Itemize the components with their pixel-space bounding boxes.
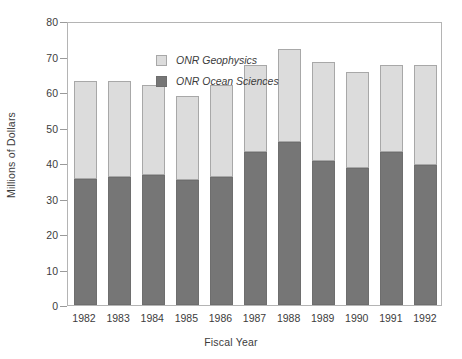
bar-group <box>312 21 335 305</box>
y-axis-tick-label: 0 <box>4 300 58 312</box>
y-axis-tick <box>60 129 67 130</box>
y-axis-tick <box>60 93 67 94</box>
x-axis-tick-label: 1983 <box>106 312 129 324</box>
bar-segment-ocean-sciences <box>414 165 437 305</box>
bar-segment-geophysics <box>142 85 165 176</box>
y-axis-tick-label: 80 <box>4 16 58 28</box>
x-axis-tick-label: 1992 <box>413 312 436 324</box>
y-axis-tick <box>60 164 67 165</box>
bar-segment-ocean-sciences <box>210 177 233 305</box>
bar-segment-ocean-sciences <box>108 177 131 305</box>
bar-segment-ocean-sciences <box>176 180 199 305</box>
bar-segment-geophysics <box>346 72 369 168</box>
y-axis-tick <box>60 271 67 272</box>
chart-legend: ONR GeophysicsONR Ocean Sciences <box>156 52 279 94</box>
y-axis-tick-label: 70 <box>4 52 58 64</box>
bar-group <box>346 21 369 305</box>
x-axis-tick-label: 1987 <box>243 312 266 324</box>
bar-group <box>108 21 131 305</box>
legend-item: ONR Ocean Sciences <box>156 73 279 89</box>
y-axis-tick-label: 20 <box>4 229 58 241</box>
bar-segment-geophysics <box>380 65 403 152</box>
legend-item: ONR Geophysics <box>156 52 279 68</box>
stacked-bar-chart: Millions of Dollars 01020304050607080 ON… <box>0 0 462 359</box>
bar-segment-ocean-sciences <box>312 161 335 305</box>
y-axis-tick <box>60 58 67 59</box>
bar-segment-geophysics <box>278 49 301 141</box>
legend-label: ONR Ocean Sciences <box>176 75 279 87</box>
y-axis-tick-label: 40 <box>4 158 58 170</box>
bar-segment-ocean-sciences <box>74 179 97 305</box>
x-axis-tick-label: 1988 <box>277 312 300 324</box>
bar-segment-ocean-sciences <box>278 142 301 305</box>
legend-swatch <box>156 55 167 66</box>
y-axis-tick <box>60 306 67 307</box>
bar-segment-ocean-sciences <box>142 175 165 305</box>
x-axis-tick-label: 1985 <box>175 312 198 324</box>
bar-segment-geophysics <box>74 81 97 179</box>
x-axis-tick-label: 1989 <box>311 312 334 324</box>
bar-segment-geophysics <box>176 96 199 180</box>
bar-segment-ocean-sciences <box>346 168 369 305</box>
legend-swatch <box>156 76 167 87</box>
x-axis-tick-label: 1990 <box>345 312 368 324</box>
y-axis-tick-label: 30 <box>4 194 58 206</box>
x-axis-title: Fiscal Year <box>0 336 462 348</box>
bar-group <box>414 21 437 305</box>
y-axis-tick-label: 50 <box>4 123 58 135</box>
bar-group <box>74 21 97 305</box>
bar-segment-geophysics <box>414 65 437 164</box>
bar-segment-ocean-sciences <box>380 152 403 305</box>
y-axis-tick-label: 60 <box>4 87 58 99</box>
x-axis-tick-label: 1991 <box>379 312 402 324</box>
bar-segment-ocean-sciences <box>244 152 267 305</box>
y-axis-title: Millions of Dollars <box>0 0 22 310</box>
x-axis-tick-label: 1986 <box>209 312 232 324</box>
bar-group <box>278 21 301 305</box>
y-axis-tick <box>60 22 67 23</box>
y-axis-tick <box>60 200 67 201</box>
legend-label: ONR Geophysics <box>176 54 257 66</box>
y-axis-tick <box>60 235 67 236</box>
bar-segment-geophysics <box>210 85 233 177</box>
y-axis-tick-label: 10 <box>4 265 58 277</box>
bar-segment-geophysics <box>312 62 335 161</box>
bar-group <box>380 21 403 305</box>
x-axis-tick-label: 1984 <box>141 312 164 324</box>
bar-segment-geophysics <box>108 81 131 177</box>
x-axis-tick-label: 1982 <box>72 312 95 324</box>
plot-area: ONR GeophysicsONR Ocean Sciences <box>67 22 442 306</box>
